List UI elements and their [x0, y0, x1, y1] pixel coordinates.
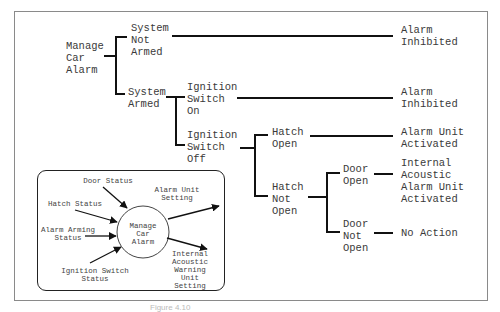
- output-alarm-unit-setting: Alarm UnitSetting: [150, 186, 204, 202]
- input-door-status: Door Status: [78, 177, 138, 185]
- figure-caption: Figure 4.10: [150, 303, 190, 312]
- input-hatch-status: Hatch Status: [45, 200, 105, 208]
- input-ignition-switch-status: Ignition SwitchStatus: [55, 267, 135, 283]
- input-alarm-arming-status: Alarm ArmingStatus: [38, 226, 98, 242]
- output-internal-warning-setting: InternalAcousticWarningUnitSetting: [165, 250, 215, 290]
- process-label: ManageCarAlarm: [123, 222, 163, 246]
